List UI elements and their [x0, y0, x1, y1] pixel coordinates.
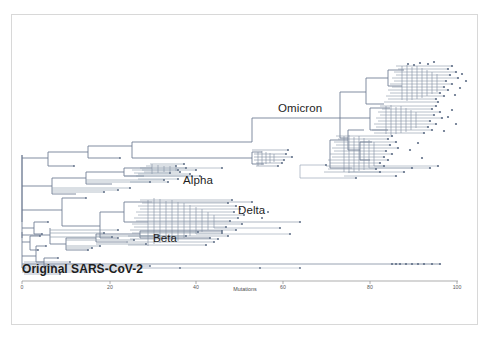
x-tick-label-0: 0 [21, 284, 24, 290]
label-beta: Beta [153, 232, 177, 244]
x-tick-label-60: 60 [280, 284, 286, 290]
x-axis-title: Mutations [233, 286, 256, 292]
x-tick-label-40: 40 [193, 284, 199, 290]
label-delta: Delta [238, 204, 265, 216]
tree-branches [22, 65, 458, 274]
label-omicron: Omicron [278, 102, 322, 114]
x-axis [22, 281, 458, 284]
x-tick-label-20: 20 [107, 284, 113, 290]
x-tick-label-100: 100 [453, 284, 462, 290]
label-original-sars-cov-2: Original SARS-CoV-2 [22, 262, 143, 276]
x-tick-label-80: 80 [367, 284, 373, 290]
figure-root: Omicron Alpha Delta Beta Original SARS-C… [0, 0, 490, 340]
label-alpha: Alpha [183, 174, 213, 186]
